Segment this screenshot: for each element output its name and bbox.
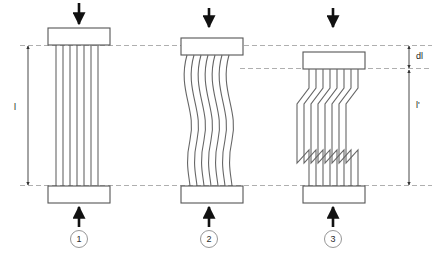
stage-2-top-platen [181, 38, 243, 55]
stage-3-number-label: 3 [324, 235, 342, 244]
stage-2-group [181, 8, 243, 248]
stage-3-fibers [297, 69, 358, 186]
stage-1-top-platen [48, 28, 110, 45]
stage-1-number-label: 1 [70, 235, 88, 244]
dimension-label-dl: dl [416, 52, 423, 61]
stage-2-number-label: 2 [200, 235, 218, 244]
dimension-label-l-prime: l' [416, 101, 420, 110]
stage-3-top-platen [303, 52, 365, 69]
stage-3-group [297, 8, 365, 248]
compression-failure-figure: l dl l' 1 2 3 [0, 0, 443, 253]
stage-1-fibers [56, 45, 98, 186]
stage-2-bottom-platen [181, 186, 243, 203]
stage-1-group [48, 3, 110, 248]
diagram-canvas [0, 0, 443, 253]
dimension-label-l: l [14, 103, 16, 112]
stage-2-fibers [184, 55, 233, 186]
stage-1-bottom-platen [48, 186, 110, 203]
stage-3-bottom-platen [303, 186, 365, 203]
